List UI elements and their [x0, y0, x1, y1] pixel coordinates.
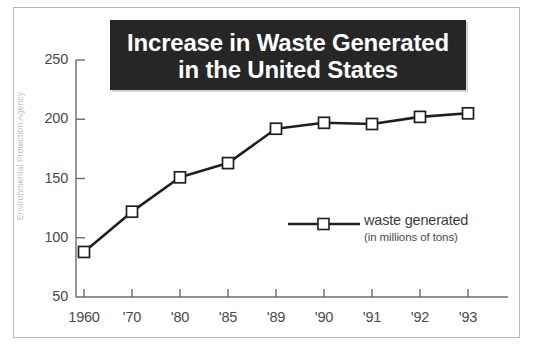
chart-title-line-2: in the United States: [178, 56, 398, 83]
legend-label: waste generated: [364, 212, 468, 228]
chart-title-banner: Increase in Waste Generated in the Unite…: [110, 20, 466, 90]
x-axis-tick-label: '93: [438, 309, 498, 325]
legend-sublabel: (in millions of tons): [364, 231, 458, 243]
y-axis-tick-label: 250: [28, 51, 68, 67]
y-axis-tick-label: 150: [28, 170, 68, 186]
source-credit-label: Environmental Protection Agency: [15, 76, 27, 236]
chart-title-line-1: Increase in Waste Generated: [127, 29, 449, 56]
y-axis-tick-label: 100: [28, 229, 68, 245]
legend-sample-line: [288, 216, 360, 232]
y-axis-tick-label: 200: [28, 110, 68, 126]
y-axis-tick-label: 50: [28, 288, 68, 304]
